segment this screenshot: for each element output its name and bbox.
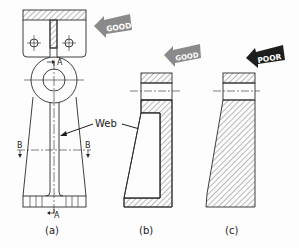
- technical-drawing-figure: GOOD GOOD POOR A A B B Web (a) (b) (c): [0, 0, 299, 248]
- good-badge-b: GOOD: [164, 44, 201, 67]
- web-front-view: [46, 102, 63, 196]
- view-a: [17, 10, 91, 215]
- top-section-view: [23, 10, 86, 57]
- view-c: [206, 73, 260, 207]
- section-label-b-left: B: [17, 141, 23, 150]
- caption-b: (b): [139, 225, 153, 236]
- section-label-a-bottom: A: [54, 211, 60, 220]
- caption-c: (c): [225, 225, 238, 236]
- section-label-b-right: B: [85, 141, 91, 150]
- good-badge-top: GOOD: [94, 14, 132, 38]
- base-front-view: [23, 196, 86, 207]
- caption-a: (a): [45, 225, 59, 236]
- view-b: [124, 73, 180, 207]
- drawing-svg: GOOD GOOD POOR A A B B Web (a) (b) (c): [0, 0, 299, 248]
- section-label-a-top: A: [57, 58, 63, 67]
- poor-badge-c: POOR: [246, 45, 285, 68]
- web-label: Web: [95, 118, 117, 129]
- boss-front-view: [24, 57, 84, 214]
